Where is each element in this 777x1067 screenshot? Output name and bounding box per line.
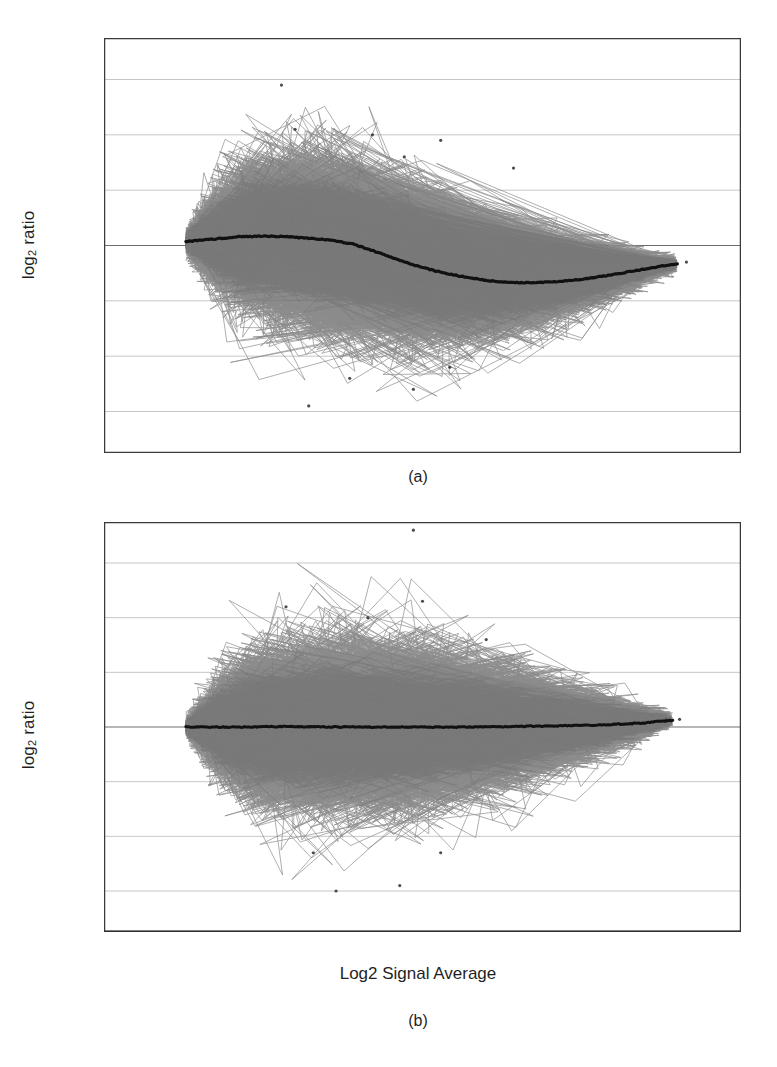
panel-a-svg: 3210−1−2−3 [104,38,741,453]
panel-b-plot-area: 3210−1−2−32345678910111213141516 [104,522,741,932]
panel-a-caption: (a) [378,468,458,486]
panel-b: log2 ratio 3210−1−2−32345678910111213141… [0,500,777,1067]
figure-ma-plots: log2 ratio 3210−1−2−3 (a) log2 ratio 321… [0,0,777,1067]
panel-a-y-axis-label: log2 ratio [19,190,39,300]
x-axis-label: Log2 Signal Average [218,964,618,984]
panel-b-caption: (b) [378,1012,458,1030]
panel-b-svg: 3210−1−2−32345678910111213141516 [104,522,741,932]
panel-a-plot-area: 3210−1−2−3 [104,38,741,453]
panel-b-y-axis-label: log2 ratio [19,680,39,790]
panel-a: log2 ratio 3210−1−2−3 (a) [0,0,777,500]
